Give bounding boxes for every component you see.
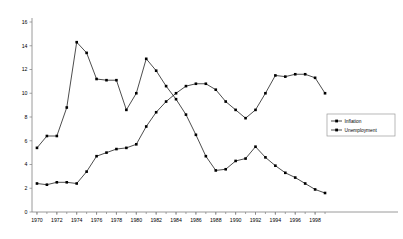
data-point xyxy=(304,182,307,185)
data-point xyxy=(115,79,118,82)
series-unemployment xyxy=(36,73,327,186)
data-point xyxy=(274,164,277,167)
chart-legend: InflationUnemployment xyxy=(327,114,395,136)
data-point xyxy=(264,92,267,95)
data-point xyxy=(294,176,297,179)
y-tick-label: 8 xyxy=(25,114,28,120)
data-point xyxy=(224,100,227,103)
data-point xyxy=(195,134,198,137)
x-tick-label: 1998 xyxy=(309,217,321,223)
data-point xyxy=(145,58,148,61)
data-point xyxy=(284,172,287,175)
data-point xyxy=(314,188,317,191)
data-point xyxy=(65,106,68,109)
data-point xyxy=(125,147,128,150)
data-point xyxy=(75,182,78,185)
x-tick-label: 1980 xyxy=(131,217,143,223)
data-point xyxy=(85,52,88,55)
data-point xyxy=(65,181,68,184)
x-tick-label: 1974 xyxy=(71,217,83,223)
data-point xyxy=(304,73,307,76)
x-tick-label: 1988 xyxy=(210,217,222,223)
data-point xyxy=(264,156,267,159)
data-point xyxy=(234,160,237,163)
data-point xyxy=(195,82,198,85)
data-point xyxy=(214,169,217,172)
data-point xyxy=(155,111,158,114)
data-point xyxy=(175,98,178,101)
legend-marker-1 xyxy=(335,129,338,132)
x-tick-label: 1970 xyxy=(31,217,43,223)
data-point xyxy=(224,168,227,171)
data-point xyxy=(85,170,88,173)
data-point xyxy=(185,113,188,116)
data-point xyxy=(125,109,128,112)
data-point xyxy=(175,92,178,95)
data-point xyxy=(95,155,98,158)
data-point xyxy=(314,77,317,80)
data-point xyxy=(205,155,208,158)
x-tick-label: 1992 xyxy=(250,217,262,223)
x-tick-label: 1972 xyxy=(51,217,63,223)
y-tick-label: 12 xyxy=(22,66,28,72)
series-inflation xyxy=(36,41,327,194)
legend-label-0: Inflation xyxy=(345,119,362,124)
legend-marker-0 xyxy=(335,120,338,123)
y-tick-label: 0 xyxy=(25,209,28,215)
data-point xyxy=(36,147,39,150)
data-point xyxy=(254,145,257,148)
x-tick-label: 1986 xyxy=(190,217,202,223)
data-point xyxy=(46,135,49,138)
y-tick-label: 2 xyxy=(25,185,28,191)
data-point xyxy=(324,192,327,195)
y-tick-label: 6 xyxy=(25,138,28,144)
series-line-inflation xyxy=(37,42,325,193)
y-tick-label: 10 xyxy=(22,90,28,96)
data-point xyxy=(324,92,327,95)
data-point xyxy=(294,73,297,76)
data-point xyxy=(105,151,108,154)
chart-container: 0246810121416197019721974197619781980198… xyxy=(0,0,403,239)
data-point xyxy=(105,79,108,82)
legend-label-1: Unemployment xyxy=(345,128,378,133)
series-line-unemployment xyxy=(37,74,325,184)
data-point xyxy=(95,78,98,81)
data-point xyxy=(244,157,247,160)
data-point xyxy=(115,148,118,151)
data-point xyxy=(214,88,217,91)
data-point xyxy=(165,85,168,88)
y-tick-label: 16 xyxy=(22,19,28,25)
data-point xyxy=(56,181,59,184)
data-point xyxy=(46,183,49,186)
x-tick-label: 1994 xyxy=(270,217,282,223)
x-tick-label: 1982 xyxy=(150,217,162,223)
y-tick-label: 4 xyxy=(25,161,28,167)
y-tick-label: 14 xyxy=(22,43,28,49)
data-point xyxy=(274,74,277,77)
data-point xyxy=(135,92,138,95)
data-point xyxy=(205,82,208,85)
data-point xyxy=(135,143,138,146)
data-point xyxy=(145,125,148,128)
line-chart: 0246810121416197019721974197619781980198… xyxy=(0,0,403,239)
data-point xyxy=(75,41,78,44)
data-point xyxy=(165,100,168,103)
x-tick-label: 1976 xyxy=(91,217,103,223)
x-tick-label: 1996 xyxy=(289,217,301,223)
data-point xyxy=(155,69,158,72)
data-point xyxy=(254,109,257,112)
x-tick-label: 1984 xyxy=(170,217,182,223)
data-point xyxy=(284,75,287,78)
data-point xyxy=(244,117,247,120)
x-tick-label: 1990 xyxy=(230,217,242,223)
data-point xyxy=(56,135,59,138)
data-point xyxy=(234,109,237,112)
data-point xyxy=(185,85,188,88)
data-point xyxy=(36,182,39,185)
x-tick-label: 1978 xyxy=(111,217,123,223)
